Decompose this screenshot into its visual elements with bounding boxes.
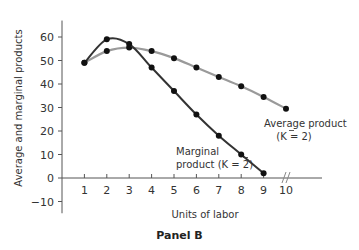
- data-point: [238, 152, 244, 158]
- svg-text:Average product: Average product: [264, 118, 347, 129]
- x-tick-label: 3: [126, 184, 133, 197]
- y-tick-label: 50: [40, 55, 54, 68]
- panel-title: Panel B: [0, 229, 359, 242]
- x-tick-label: 4: [148, 184, 155, 197]
- data-point: [81, 60, 87, 66]
- x-axis: 12345678910: [62, 172, 322, 197]
- x-tick-label: 7: [215, 184, 222, 197]
- data-point: [104, 48, 110, 54]
- chart: −100102030405060 12345678910 Average and…: [0, 0, 359, 228]
- data-point: [193, 112, 199, 118]
- data-point: [193, 65, 199, 71]
- svg-text:Marginal: Marginal: [176, 146, 219, 157]
- x-tick-label: 1: [81, 184, 88, 197]
- y-tick-label: 60: [40, 31, 54, 44]
- annotation-average-product: Average product (K = 2): [264, 118, 347, 142]
- data-point: [283, 106, 289, 112]
- y-tick-label: 30: [40, 102, 54, 115]
- y-tick-label: 40: [40, 78, 54, 91]
- x-tick-label: 8: [238, 184, 245, 197]
- data-point: [171, 55, 177, 61]
- y-axis-title: Average and marginal products: [13, 29, 24, 186]
- y-tick-label: −10: [31, 196, 54, 209]
- y-axis: −100102030405060: [31, 21, 62, 214]
- y-tick-label: 20: [40, 125, 54, 138]
- data-point: [261, 170, 267, 176]
- data-point: [216, 133, 222, 139]
- data-point: [216, 74, 222, 80]
- svg-text:product (K = 2): product (K = 2): [176, 159, 253, 170]
- annotation-marginal-product: Marginal product (K = 2): [176, 146, 253, 170]
- data-point: [104, 36, 110, 42]
- data-point: [149, 48, 155, 54]
- x-tick-label: 10: [279, 184, 293, 197]
- x-tick-label: 9: [260, 184, 267, 197]
- x-tick-label: 5: [171, 184, 178, 197]
- x-tick-label: 2: [103, 184, 110, 197]
- x-axis-title: Units of labor: [171, 209, 239, 220]
- data-point: [149, 65, 155, 71]
- x-tick-label: 6: [193, 184, 200, 197]
- data-point: [126, 41, 132, 47]
- svg-text:(K = 2): (K = 2): [276, 131, 312, 142]
- data-point: [261, 94, 267, 100]
- data-point: [171, 88, 177, 94]
- y-tick-label: 10: [40, 149, 54, 162]
- y-tick-label: 0: [47, 172, 54, 185]
- data-point: [238, 83, 244, 89]
